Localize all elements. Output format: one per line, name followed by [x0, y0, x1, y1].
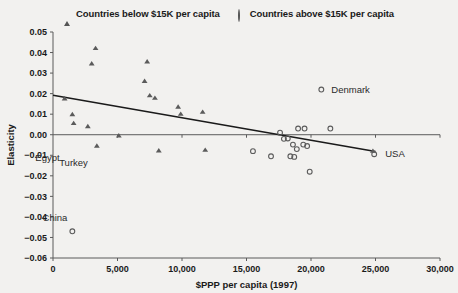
data-point-triangle	[147, 93, 153, 97]
y-tick-label: −0.02	[24, 171, 47, 181]
data-point-triangle	[200, 109, 206, 113]
plot-area: 0.050.040.030.020.010.00−0.01−0.02−0.03−…	[0, 0, 458, 293]
data-point-triangle	[156, 148, 162, 152]
y-tick-label: 0.00	[29, 130, 47, 140]
data-point-circle	[302, 126, 307, 131]
scatter-chart: Countries below $15K per capita Countrie…	[0, 0, 458, 293]
x-tick-label: 5,000	[106, 264, 129, 274]
data-point-circle	[319, 87, 324, 92]
data-point-circle	[296, 126, 301, 131]
y-axis-title: Elasticity	[5, 123, 16, 165]
point-annotation: Denmark	[331, 84, 370, 95]
data-point-triangle	[71, 121, 77, 125]
data-point-triangle	[89, 61, 95, 65]
y-tick-label: 0.02	[29, 89, 47, 99]
data-point-circle	[269, 154, 274, 159]
x-tick-label: 25,000	[362, 264, 390, 274]
y-tick-label: 0.03	[29, 68, 47, 78]
y-tick-label: −0.06	[24, 253, 47, 263]
point-annotations: DenmarkUSAChinaEgyptTurkey	[35, 84, 405, 224]
x-tick-label: 10,000	[168, 264, 196, 274]
data-point-triangle	[85, 124, 91, 128]
data-point-triangle	[152, 95, 158, 99]
point-annotation: Turkey	[59, 157, 88, 168]
data-point-triangle	[178, 111, 184, 115]
data-point-triangle	[142, 79, 148, 83]
data-point-triangle	[144, 59, 150, 63]
data-points	[62, 46, 377, 234]
x-axis-title: $PPP per capita (1997)	[196, 279, 298, 290]
x-tick-label: 20,000	[297, 264, 325, 274]
y-tick-label: 0.05	[29, 27, 47, 37]
data-point-circle	[70, 229, 75, 234]
zero-line	[53, 135, 440, 138]
data-point-circle	[291, 142, 296, 147]
point-annotation: China	[43, 212, 69, 223]
data-point-triangle	[175, 104, 181, 108]
data-point-triangle	[94, 143, 100, 147]
data-point-circle	[328, 126, 333, 131]
x-axis: 05,00010,00015,00020,00025,00030,000	[50, 258, 453, 274]
data-point-triangle	[69, 112, 75, 116]
x-tick-label: 0	[50, 264, 55, 274]
y-tick-label: −0.03	[24, 192, 47, 202]
point-annotation: USA	[385, 148, 405, 159]
data-point-triangle	[93, 46, 99, 50]
data-point-circle	[294, 147, 299, 152]
data-point-circle	[251, 149, 256, 154]
x-tick-label: 15,000	[233, 264, 261, 274]
y-axis: 0.050.040.030.020.010.00−0.01−0.02−0.03−…	[24, 27, 53, 263]
trend-line	[53, 95, 376, 151]
y-tick-label: 0.04	[29, 48, 47, 58]
data-point-triangle	[202, 147, 208, 151]
y-tick-label: 0.01	[29, 109, 47, 119]
point-annotation: Egypt	[35, 152, 60, 163]
data-point-circle	[307, 169, 312, 174]
x-tick-label: 30,000	[426, 264, 454, 274]
y-tick-label: −0.05	[24, 233, 47, 243]
